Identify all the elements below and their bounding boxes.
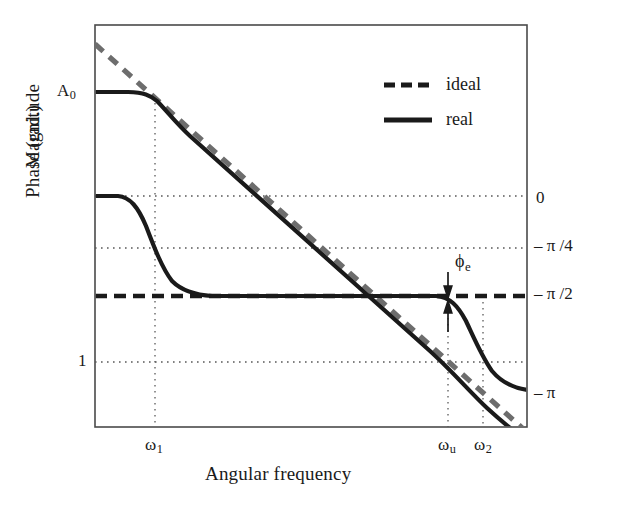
y2-tick-pi-over-4: – π /4 bbox=[534, 237, 573, 254]
x-tick-omegau: ωu bbox=[438, 436, 456, 456]
x-axis-title: Angular frequency bbox=[205, 464, 351, 483]
x-tick-omega1: ω1 bbox=[145, 436, 163, 456]
legend-label-ideal: ideal bbox=[446, 75, 481, 93]
y-tick-a0-subscript: 0 bbox=[69, 88, 76, 102]
y-tick-one: 1 bbox=[78, 352, 87, 369]
x-tick-omega1-text: ω bbox=[145, 435, 156, 454]
x-tick-omegau-subscript: u bbox=[449, 442, 456, 456]
annotation-phase-error-subscript: e bbox=[464, 259, 470, 274]
x-tick-omega1-subscript: 1 bbox=[156, 442, 163, 456]
y2-axis-title: Phase (rad.) bbox=[22, 105, 44, 198]
legend-label-real: real bbox=[446, 110, 473, 128]
y-tick-a0-text: A bbox=[57, 81, 69, 100]
x-tick-omega2: ω2 bbox=[474, 436, 492, 456]
x-tick-omegau-text: ω bbox=[438, 435, 449, 454]
legend-samples bbox=[384, 85, 432, 120]
x-tick-omega2-text: ω bbox=[474, 435, 485, 454]
bode-plot-figure: ideal real A0 1 0 – π /4 – π /2 – π ω1 ω… bbox=[0, 0, 644, 515]
y2-tick-pi: – π bbox=[534, 384, 555, 401]
y2-tick-pi-over-2: – π /2 bbox=[534, 285, 573, 302]
annotation-phase-error: ϕe bbox=[455, 252, 471, 274]
x-tick-omega2-subscript: 2 bbox=[485, 442, 492, 456]
plot-canvas bbox=[0, 0, 644, 515]
y2-tick-zero: 0 bbox=[536, 189, 545, 206]
y-tick-a0: A0 bbox=[57, 82, 76, 102]
series-real-phase bbox=[95, 196, 527, 390]
horizontal-gridlines bbox=[95, 196, 527, 362]
